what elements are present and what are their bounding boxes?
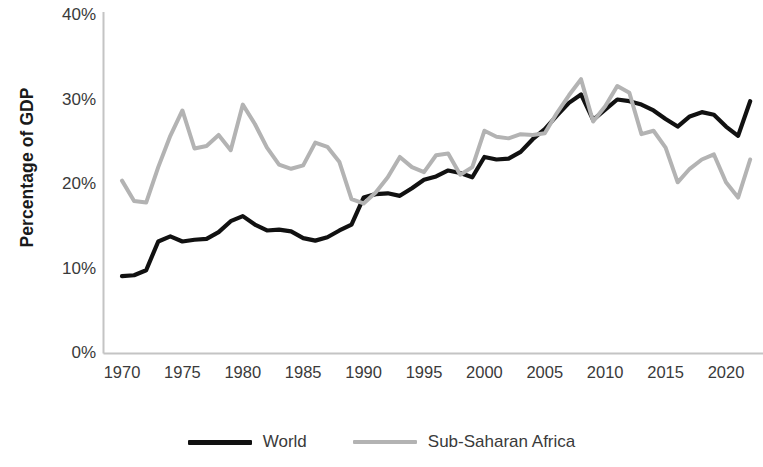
legend-label: World [263,432,307,452]
chart-legend: WorldSub-Saharan Africa [0,432,763,452]
legend-swatch-icon [188,440,252,445]
x-axis-tick: 1975 [164,363,201,382]
x-axis-tick: 2015 [647,363,684,382]
x-axis-tick: 1990 [345,363,382,382]
x-axis-tick: 1995 [406,363,443,382]
x-axis-tick-labels: 1970197519801985199019952000200520102015… [0,363,763,389]
legend-swatch-icon [353,440,417,444]
data-series-group [122,79,750,276]
legend-item[interactable]: Sub-Saharan Africa [353,432,575,452]
x-axis-tick: 2005 [526,363,563,382]
x-axis-tick: 2020 [708,363,745,382]
x-axis-tick: 2000 [466,363,503,382]
chart-plot-area [0,0,763,467]
chart-figure: Percentage of GDP 40%30%20%10%0% 1970197… [0,0,763,467]
x-axis-tick: 1970 [104,363,141,382]
legend-label: Sub-Saharan Africa [428,432,575,452]
x-axis-tick: 1980 [224,363,261,382]
x-axis-tick: 1985 [285,363,322,382]
legend-item[interactable]: World [188,432,307,452]
series-line-sub-saharan-africa [122,79,750,203]
axis-lines [104,12,763,354]
series-line-world [122,94,750,276]
x-axis-tick: 2010 [587,363,624,382]
